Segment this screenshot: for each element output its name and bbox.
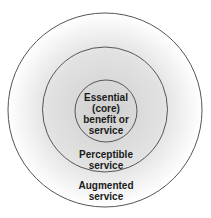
outer-label-line-1: Augmented: [79, 180, 134, 191]
middle-label-line-2: service: [89, 160, 124, 171]
inner-label-line-2: (core): [92, 103, 120, 114]
inner-label-line-3: benefit or: [83, 114, 129, 125]
middle-label-line-1: Perceptible: [79, 149, 133, 160]
inner-label-line-1: Essential: [84, 92, 128, 103]
outer-label-line-2: service: [89, 191, 124, 202]
inner-label-line-4: service: [89, 125, 124, 136]
service-layers-diagram: Essential (core) benefit or service Perc…: [0, 0, 211, 218]
